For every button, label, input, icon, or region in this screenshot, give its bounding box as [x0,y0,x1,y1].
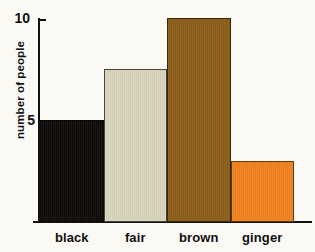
x-axis-label-brown: brown [167,230,231,245]
bar-ginger [231,161,295,222]
x-axis-label-black: black [40,230,104,245]
y-axis-label: number of people [14,10,34,170]
x-axis-label-ginger: ginger [231,230,295,245]
bar-brown [167,18,231,222]
y-tick-label-10: 10 [8,11,30,25]
bar-chart-figure: number of people 10 5 black fair brown g… [0,0,315,252]
plot-area [40,18,294,222]
bar-fair [104,69,168,222]
bar-black [40,120,104,222]
x-axis-label-fair: fair [104,230,168,245]
y-tick-label-5: 5 [13,113,35,127]
